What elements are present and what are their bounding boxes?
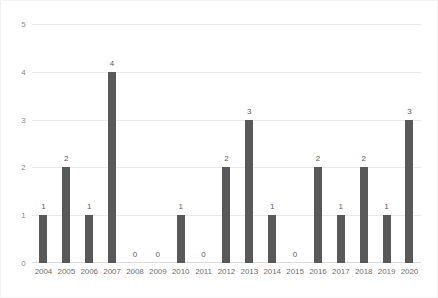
bar-category: 0 (146, 24, 169, 263)
x-axis-tick-label: 2004 (32, 267, 55, 276)
bar-category: 1 (78, 24, 101, 263)
y-axis-tick-label: 3 (21, 115, 26, 124)
bar-value-label: 2 (64, 155, 68, 163)
x-axis-tick-label: 2011 (192, 267, 215, 276)
bar-category: 1 (169, 24, 192, 263)
bar (222, 167, 230, 263)
y-axis-tick-label: 4 (21, 67, 26, 76)
bar (245, 120, 253, 263)
x-axis-tick-label: 2006 (78, 267, 101, 276)
x-axis-tick-label: 2007 (101, 267, 124, 276)
bar-value-label: 2 (316, 155, 320, 163)
bar-value-label: 0 (133, 251, 137, 259)
bar-value-label: 1 (41, 203, 45, 211)
bar-category: 1 (32, 24, 55, 263)
bar-value-label: 3 (407, 108, 411, 116)
x-axis-tick-label: 2018 (352, 267, 375, 276)
bar (360, 167, 368, 263)
bar-category: 2 (352, 24, 375, 263)
bar-category: 2 (55, 24, 78, 263)
bar-series: 12140010231021213 (32, 24, 421, 263)
x-axis-tick-label: 2009 (146, 267, 169, 276)
x-axis-tick-labels: 2004200520062007200820092010201120122013… (32, 267, 421, 276)
bar (177, 215, 185, 263)
y-axis-tick-label: 5 (21, 20, 26, 29)
bar-category: 3 (238, 24, 261, 263)
bar-value-label: 0 (201, 251, 205, 259)
bar-value-label: 1 (384, 203, 388, 211)
bar-category: 0 (284, 24, 307, 263)
bar-value-label: 2 (224, 155, 228, 163)
bar-chart: 012345 12140010231021213 200420052006200… (0, 0, 438, 298)
x-axis-tick-label: 2013 (238, 267, 261, 276)
bar (337, 215, 345, 263)
bar (314, 167, 322, 263)
x-axis-tick-label: 2010 (169, 267, 192, 276)
bar (405, 120, 413, 263)
bar-category: 2 (307, 24, 330, 263)
x-axis-tick-label: 2005 (55, 267, 78, 276)
bar (268, 215, 276, 263)
bar-category: 1 (261, 24, 284, 263)
x-axis-tick-label: 2008 (124, 267, 147, 276)
y-axis-tick-label: 1 (21, 211, 26, 220)
bar-value-label: 2 (361, 155, 365, 163)
bar (62, 167, 70, 263)
bar-value-label: 4 (110, 60, 114, 68)
bar-category: 1 (329, 24, 352, 263)
x-axis-tick-label: 2020 (398, 267, 421, 276)
plot-area: 012345 12140010231021213 (32, 24, 421, 263)
bar-category: 4 (101, 24, 124, 263)
bar-category: 0 (192, 24, 215, 263)
y-axis-tick-label: 0 (21, 259, 26, 268)
x-axis-tick-label: 2014 (261, 267, 284, 276)
bar-value-label: 0 (156, 251, 160, 259)
bar-value-label: 1 (339, 203, 343, 211)
x-axis-tick-label: 2012 (215, 267, 238, 276)
x-axis-tick-label: 2019 (375, 267, 398, 276)
bar-value-label: 0 (293, 251, 297, 259)
x-axis-tick-label: 2016 (307, 267, 330, 276)
bar (85, 215, 93, 263)
bar-category: 2 (215, 24, 238, 263)
x-axis-tick-label: 2017 (329, 267, 352, 276)
bar-category: 1 (375, 24, 398, 263)
bar (383, 215, 391, 263)
bar (108, 72, 116, 263)
bar-value-label: 1 (178, 203, 182, 211)
bar-category: 0 (124, 24, 147, 263)
y-axis-tick-label: 2 (21, 163, 26, 172)
bar-value-label: 1 (270, 203, 274, 211)
bar-category: 3 (398, 24, 421, 263)
bar-value-label: 1 (87, 203, 91, 211)
bar-value-label: 3 (247, 108, 251, 116)
x-axis-tick-label: 2015 (284, 267, 307, 276)
bar (39, 215, 47, 263)
